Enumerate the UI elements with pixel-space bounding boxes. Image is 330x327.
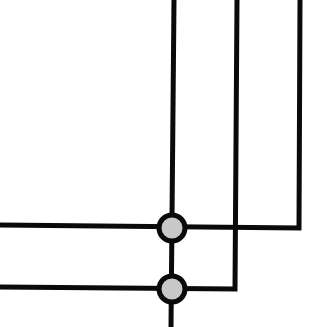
diagram-canvas <box>0 0 330 327</box>
upper-junction-node <box>159 215 185 241</box>
lower-junction-node <box>159 276 185 302</box>
